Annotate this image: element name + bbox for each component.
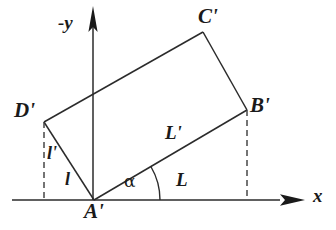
label-l: l xyxy=(65,170,70,188)
angle-alpha-label: α xyxy=(124,173,135,190)
edge-B-prime-C-prime xyxy=(203,32,247,110)
y-axis-label: -y xyxy=(58,13,73,32)
vertex-label-B-prime: B' xyxy=(250,95,270,116)
label-L-prime: L' xyxy=(165,123,182,142)
edge-C-prime-D-prime xyxy=(44,32,203,122)
vertex-label-D-prime: D' xyxy=(14,100,35,121)
geometry-figure: -y x A' B' C' D' L L' l l' α xyxy=(0,0,336,230)
x-axis-arrowhead xyxy=(280,194,305,206)
x-axis-label: x xyxy=(313,186,323,205)
figure-canvas xyxy=(0,0,336,230)
label-l-prime: l' xyxy=(47,144,57,162)
vertex-label-A-prime: A' xyxy=(84,201,104,222)
angle-alpha-arc xyxy=(151,167,160,200)
vertex-label-C-prime: C' xyxy=(198,6,218,27)
label-L: L xyxy=(176,170,188,189)
